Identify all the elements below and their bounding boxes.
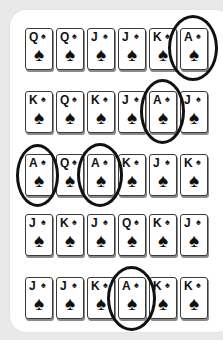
spade-icon: ♠ (103, 218, 108, 227)
spade-icon: ♠ (57, 231, 83, 251)
spade-icon: ♠ (72, 158, 77, 167)
playing-card[interactable]: J♠♠ (25, 277, 53, 319)
card-rank: J (153, 157, 160, 169)
card-rank: K (184, 157, 193, 169)
playing-card[interactable]: K♠♠ (180, 277, 208, 319)
selection-circle (140, 79, 185, 144)
spade-icon: ♠ (134, 32, 139, 41)
spade-icon: ♠ (119, 231, 145, 251)
playing-card[interactable]: J♠♠ (149, 154, 177, 196)
spade-icon: ♠ (134, 158, 139, 167)
card-rank: K (29, 94, 38, 106)
spade-icon: ♠ (196, 281, 201, 290)
card-rank: Q (60, 157, 69, 169)
spade-icon: ♠ (134, 95, 139, 104)
playing-card[interactable]: J♠♠ (25, 214, 53, 256)
spade-icon: ♠ (26, 294, 52, 314)
card-rank: Q (60, 94, 69, 106)
spade-icon: ♠ (72, 32, 77, 41)
selection-circle (16, 144, 59, 207)
spade-icon: ♠ (134, 218, 139, 227)
spade-icon: ♠ (41, 218, 46, 227)
playing-card[interactable]: J♠♠ (180, 214, 208, 256)
selection-circle (107, 266, 156, 331)
spade-icon: ♠ (165, 218, 170, 227)
playing-card[interactable]: Q♠♠ (56, 91, 84, 133)
spade-icon: ♠ (88, 108, 114, 128)
playing-card[interactable]: K♠♠ (149, 214, 177, 256)
card-rank: K (153, 31, 162, 43)
playing-card[interactable]: Q♠♠ (118, 214, 146, 256)
card-rank: K (184, 280, 193, 292)
card-rank: J (91, 31, 98, 43)
card-rank: J (122, 31, 129, 43)
playing-card[interactable]: J♠♠ (87, 28, 115, 70)
playing-card[interactable]: Q♠♠ (25, 28, 53, 70)
spade-icon: ♠ (88, 45, 114, 65)
spade-icon: ♠ (150, 171, 176, 191)
selection-circle (77, 143, 123, 207)
spade-icon: ♠ (72, 95, 77, 104)
card-rank: J (184, 217, 191, 229)
spade-icon: ♠ (165, 281, 170, 290)
playing-card[interactable]: J♠♠ (87, 214, 115, 256)
card-rank: Q (122, 217, 131, 229)
selection-circle (168, 15, 218, 81)
playing-card[interactable]: J♠♠ (56, 277, 84, 319)
card-rank: K (91, 280, 100, 292)
spade-icon: ♠ (150, 231, 176, 251)
spade-icon: ♠ (181, 171, 207, 191)
spade-icon: ♠ (41, 32, 46, 41)
spade-icon: ♠ (26, 231, 52, 251)
spade-icon: ♠ (196, 158, 201, 167)
card-rank: Q (60, 31, 69, 43)
spade-icon: ♠ (181, 294, 207, 314)
playing-card[interactable]: K♠♠ (180, 154, 208, 196)
spade-icon: ♠ (196, 218, 201, 227)
card-rank: J (60, 280, 67, 292)
playing-card[interactable]: K♠♠ (56, 214, 84, 256)
card-rank: J (29, 280, 36, 292)
card-rank: K (153, 217, 162, 229)
spade-icon: ♠ (119, 45, 145, 65)
spade-icon: ♠ (88, 231, 114, 251)
spade-icon: ♠ (165, 158, 170, 167)
playing-card[interactable]: J♠♠ (118, 28, 146, 70)
spade-icon: ♠ (196, 95, 201, 104)
spade-icon: ♠ (26, 108, 52, 128)
spade-icon: ♠ (41, 95, 46, 104)
spade-icon: ♠ (57, 45, 83, 65)
card-rank: K (91, 94, 100, 106)
playing-card[interactable]: K♠♠ (87, 91, 115, 133)
playing-card[interactable]: K♠♠ (25, 91, 53, 133)
card-rank: J (184, 94, 191, 106)
card-rank: Q (29, 31, 38, 43)
spade-icon: ♠ (103, 32, 108, 41)
card-rank: J (122, 94, 129, 106)
playing-card[interactable]: Q♠♠ (56, 28, 84, 70)
card-rank: J (91, 217, 98, 229)
spade-icon: ♠ (103, 95, 108, 104)
spade-icon: ♠ (57, 108, 83, 128)
spade-icon: ♠ (72, 281, 77, 290)
spade-icon: ♠ (26, 45, 52, 65)
card-rank: K (60, 217, 69, 229)
card-rank: J (29, 217, 36, 229)
spade-icon: ♠ (57, 294, 83, 314)
spade-icon: ♠ (181, 231, 207, 251)
spade-icon: ♠ (72, 218, 77, 227)
card-rank: K (122, 157, 131, 169)
spade-icon: ♠ (41, 281, 46, 290)
